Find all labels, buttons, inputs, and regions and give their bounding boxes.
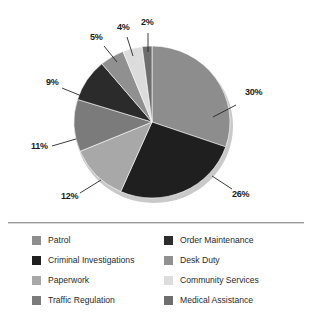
legend-item[interactable]: Traffic Regulation (32, 290, 164, 310)
pie-chart-figure: 30% 26% 12% 11% 9% 5% 4% 2% PatrolOrder … (0, 0, 312, 329)
pie-svg (0, 0, 312, 222)
swatch-patrol (32, 236, 41, 245)
legend-item-label: Criminal Investigations (48, 256, 134, 265)
legend-item-label: Patrol (48, 236, 70, 245)
slice-label-patrol: 30% (245, 88, 262, 97)
legend-item[interactable]: Paperwork (32, 270, 164, 290)
legend-item-label: Medical Assistance (180, 296, 253, 305)
slice-label-order-maintenance: 9% (46, 78, 59, 87)
legend-item[interactable]: Criminal Investigations (32, 250, 164, 270)
leader-line-26 (212, 176, 232, 189)
legend-item[interactable]: Order Maintenance (164, 230, 312, 250)
legend-item-label: Community Services (180, 276, 259, 285)
swatch-order-maintenance (164, 236, 173, 245)
legend-item-label: Order Maintenance (180, 236, 254, 245)
legend-item-label: Desk Duty (180, 256, 220, 265)
swatch-desk-duty (164, 256, 173, 265)
legend-item-label: Paperwork (48, 276, 89, 285)
legend-item[interactable]: Medical Assistance (164, 290, 312, 310)
slice-label-desk-duty: 5% (90, 33, 103, 42)
slice-label-medical-assistance: 2% (141, 18, 154, 27)
pie-plot-area: 30% 26% 12% 11% 9% 5% 4% 2% (0, 0, 312, 222)
swatch-community-services (164, 276, 173, 285)
legend-item[interactable]: Desk Duty (164, 250, 312, 270)
slice-label-criminal-investigations: 26% (232, 190, 249, 199)
swatch-criminal-investigations (32, 256, 41, 265)
slice-label-community-services: 4% (117, 23, 130, 32)
slice-label-traffic-regulation: 11% (31, 142, 48, 151)
legend-item-label: Traffic Regulation (48, 296, 115, 305)
swatch-paperwork (32, 276, 41, 285)
leader-line-11 (52, 139, 76, 146)
pie-slice-group (74, 46, 230, 198)
legend-divider-shadow (8, 223, 304, 224)
slice-label-paperwork: 12% (61, 192, 78, 201)
leader-line-12 (80, 180, 101, 193)
swatch-medical-assistance (164, 296, 173, 305)
legend-item[interactable]: Patrol (32, 230, 164, 250)
legend-item[interactable]: Community Services (164, 270, 312, 290)
chart-legend: PatrolOrder MaintenanceCriminal Investig… (0, 230, 312, 329)
swatch-traffic-regulation (32, 296, 41, 305)
